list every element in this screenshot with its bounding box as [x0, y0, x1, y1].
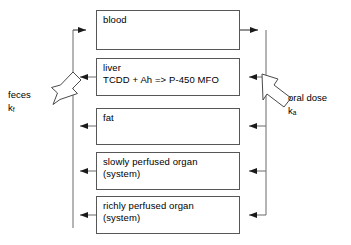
compartment-richly-perfused-organ: richly perfused organ (system)	[96, 196, 240, 234]
compartment-liver-reaction: TCDD + Ah => P-450 MFO	[103, 74, 239, 86]
label-oral-dose-text: oral dose	[288, 92, 327, 104]
label-feces-rate-constant: kf	[8, 102, 31, 116]
label-feces-rate-subscript: f	[13, 106, 15, 113]
label-oral-dose-rate-constant: ka	[288, 105, 327, 119]
compartment-slowly-perfused-organ: slowly perfused organ (system)	[96, 152, 240, 190]
compartment-fat-label: fat	[103, 112, 239, 124]
label-feces-text: feces	[8, 89, 31, 101]
compartment-blood-label: blood	[103, 14, 239, 26]
compartment-richly-perfused-organ-label: richly perfused organ	[103, 200, 239, 212]
compartment-fat: fat	[96, 108, 240, 145]
compartment-slowly-perfused-organ-sublabel: (system)	[103, 168, 239, 180]
compartment-richly-perfused-organ-sublabel: (system)	[103, 212, 239, 224]
label-oral-dose-rate-subscript: a	[293, 109, 297, 116]
compartment-liver: liver TCDD + Ah => P-450 MFO	[96, 58, 240, 96]
compartment-liver-label: liver	[103, 62, 239, 74]
diagram-canvas: blood liver TCDD + Ah => P-450 MFO fat s…	[0, 0, 351, 245]
feces-elimination-arrow	[52, 72, 82, 105]
left-return-bus	[73, 30, 96, 228]
compartment-blood: blood	[96, 10, 240, 50]
compartment-slowly-perfused-organ-label: slowly perfused organ	[103, 156, 239, 168]
label-feces: feces kf	[8, 89, 31, 116]
right-supply-bus	[240, 30, 266, 215]
label-oral-dose: oral dose ka	[288, 92, 327, 119]
